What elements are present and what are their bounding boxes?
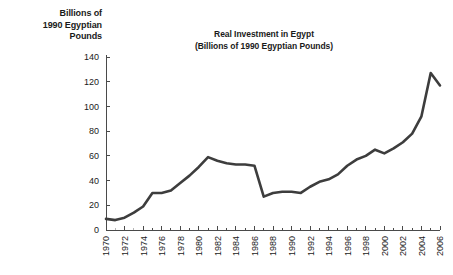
x-axis-tick-label: 2004	[417, 236, 427, 256]
x-axis-tick-label: 1970	[101, 236, 111, 256]
y-axis-tick-label: 60	[89, 151, 99, 161]
y-axis-tick-label: 140	[84, 52, 99, 62]
x-axis-tick-label: 1972	[120, 236, 130, 256]
x-axis-tick-label: 2002	[398, 236, 408, 256]
y-axis-tick-label: 0	[94, 225, 99, 235]
chart-container: Billions of 1990 Egyptian Pounds Real In…	[0, 0, 453, 275]
x-axis-tick-label: 1984	[231, 236, 241, 256]
x-axis-tick-label: 1982	[213, 236, 223, 256]
x-axis-tick-label: 1998	[361, 236, 371, 256]
x-axis-tick-label: 1974	[139, 236, 149, 256]
x-axis-tick-label: 1986	[250, 236, 260, 256]
x-axis-tick-group	[106, 226, 440, 230]
x-axis-tick-label: 1996	[343, 236, 353, 256]
x-axis-tick-label: 1980	[194, 236, 204, 256]
x-axis-tick-label: 1990	[287, 236, 297, 256]
x-axis-tick-label: 2006	[435, 236, 445, 256]
x-axis-tick-label: 1978	[176, 236, 186, 256]
x-axis-label-group: 1970197219741976197819801982198419861988…	[101, 236, 445, 256]
y-axis-tick-label: 20	[89, 200, 99, 210]
x-axis-tick-label: 1994	[324, 236, 334, 256]
y-axis-tick-label: 120	[84, 77, 99, 87]
y-axis-tick-label: 40	[89, 176, 99, 186]
x-axis-tick-label: 1976	[157, 236, 167, 256]
x-axis-tick-label: 1988	[268, 236, 278, 256]
y-axis-tick-label: 100	[84, 102, 99, 112]
x-axis-tick-label: 1992	[306, 236, 316, 256]
data-series-line	[106, 73, 440, 220]
x-axis-tick-label: 2000	[380, 236, 390, 256]
chart-plot-area: 020406080100120140 197019721974197619781…	[0, 0, 453, 275]
y-axis-tick-label: 80	[89, 126, 99, 136]
